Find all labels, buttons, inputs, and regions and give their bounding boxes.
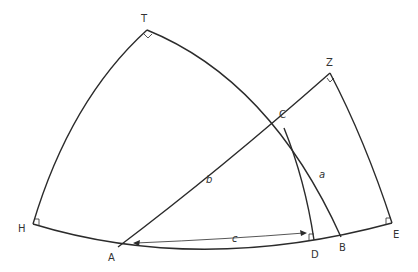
label-side-c: c [232, 233, 238, 244]
label-T: T [140, 13, 148, 24]
label-side-b: b [206, 174, 212, 185]
arc-c-arrow [136, 233, 304, 243]
arc-ZE [330, 73, 392, 223]
label-C: C [279, 109, 286, 120]
label-Z: Z [326, 57, 333, 68]
label-B: B [339, 242, 346, 253]
arc-HT [33, 30, 147, 224]
label-E: E [393, 229, 399, 240]
label-A: A [108, 252, 115, 263]
label-D: D [311, 249, 319, 260]
right-angle-T [144, 34, 152, 38]
arrowhead-right-icon [300, 230, 307, 236]
spherical-diagram: T Z C H A D B E b a c [0, 0, 418, 272]
label-H: H [18, 223, 26, 234]
label-side-a: a [319, 169, 325, 180]
arc-TCB [147, 30, 341, 237]
